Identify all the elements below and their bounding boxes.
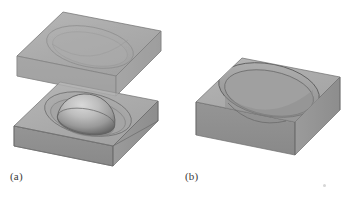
panel-label-a: (a) (10, 170, 23, 182)
panel-label-b: (b) (185, 170, 198, 182)
technical-illustration-svg (0, 0, 347, 199)
figure-container: (a) (b) (0, 0, 347, 199)
scan-speck-artifact (323, 184, 326, 187)
panel-b-block (196, 55, 340, 155)
